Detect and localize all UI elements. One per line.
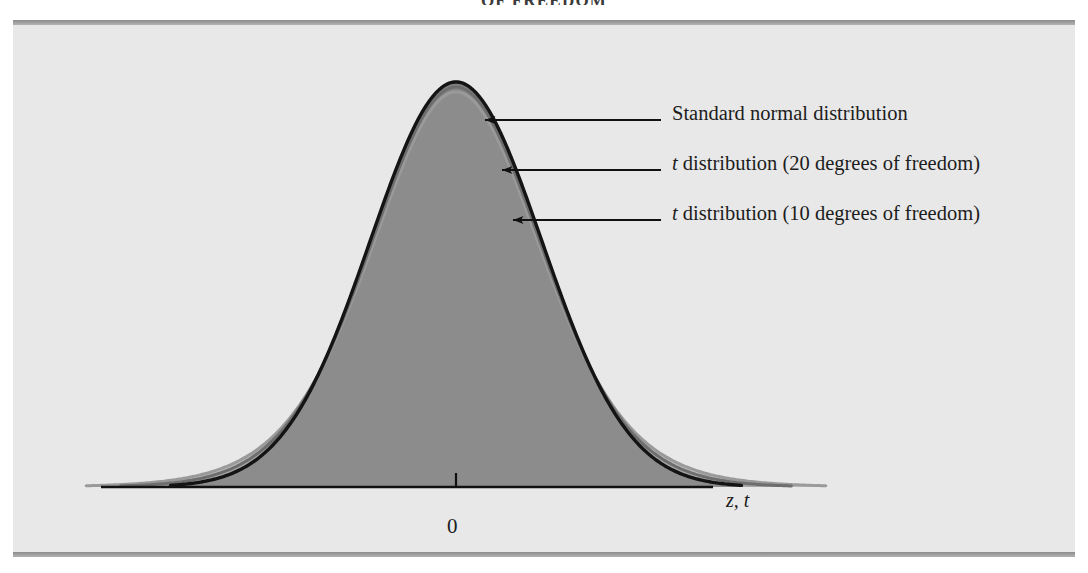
annotation-text-2: distribution (10 degrees of freedom) bbox=[678, 202, 980, 224]
distribution-plot bbox=[13, 25, 1075, 552]
annotation-label-standard-normal: Standard normal distribution bbox=[672, 103, 908, 124]
figure-rule-bottom bbox=[13, 552, 1075, 557]
annotation-text-0: Standard normal distribution bbox=[672, 102, 908, 124]
x-axis-origin-label: 0 bbox=[447, 514, 458, 539]
running-header: OF FREEDOM bbox=[0, 0, 1088, 5]
annotation-label-t-10-df: t distribution (10 degrees of freedom) bbox=[672, 203, 980, 224]
annotation-label-t-20-df: t distribution (20 degrees of freedom) bbox=[672, 153, 980, 174]
annotation-text-1: distribution (20 degrees of freedom) bbox=[678, 152, 980, 174]
x-axis-variable-label: z, t bbox=[726, 489, 749, 512]
figure-panel: Standard normal distribution t distribut… bbox=[13, 20, 1075, 557]
